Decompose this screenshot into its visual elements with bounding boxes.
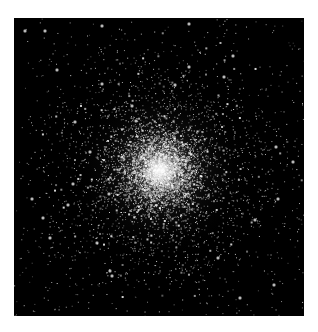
star-field-canvas [14,18,304,316]
cluster-image: Globular star cluster [14,18,304,316]
